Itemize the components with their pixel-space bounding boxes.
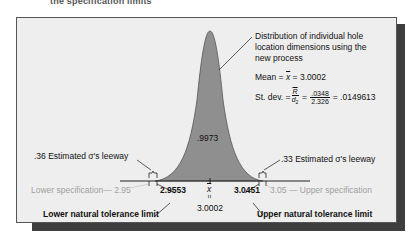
- mean-label: Mean =: [255, 72, 286, 82]
- lower-ntl-value: 2.9553: [160, 185, 186, 195]
- mean-axis-value: 3.0002: [197, 203, 223, 213]
- lower-specification-label: Lower specification— 2.95: [31, 185, 131, 195]
- stdev-label: St. dev. =: [255, 92, 291, 102]
- right-leeway-leader: [264, 160, 280, 170]
- numeric-fraction: .0348 2.326: [310, 90, 330, 105]
- area-label: .9973: [197, 133, 218, 143]
- right-leeway-label: .33 Estimated σ's leeway: [281, 154, 375, 164]
- mean-symbol: x: [286, 72, 290, 82]
- upper-ntl-value: 3.0451: [234, 185, 260, 195]
- lower-spec-leader: [130, 184, 149, 188]
- upper-ntl-label: Upper natural tolerance limit: [257, 209, 372, 219]
- r-bar-over-d2: R d2: [292, 88, 299, 106]
- distribution-label-line2: location dimensions using the: [255, 42, 367, 52]
- distribution-label-line1: Distribution of individual hole: [255, 31, 363, 41]
- lower-ntl-label: Lower natural tolerance limit: [43, 209, 159, 219]
- distribution-leader: [219, 37, 252, 70]
- upper-specification-label: 3.05 — Upper specification: [270, 185, 372, 195]
- right-leeway-bracket: [259, 171, 266, 178]
- distribution-label-line3: new process: [255, 53, 303, 63]
- left-leeway-bracket: [149, 171, 157, 178]
- mean-value: = 3.0002: [293, 72, 326, 82]
- mean-axis-symbol: x: [207, 184, 211, 194]
- left-leeway-leader: [137, 160, 151, 170]
- mean-axis-equals: =: [206, 194, 213, 198]
- stdev-formula: St. dev. = R d2 = .0348 2.326 = .0149613: [255, 88, 376, 106]
- left-leeway-label: .36 Estimated σ's leeway: [34, 151, 128, 161]
- stdev-result: = .0149613: [333, 92, 376, 102]
- distribution-curve: [155, 31, 263, 181]
- mean-formula: Mean = x = 3.0002: [255, 72, 326, 82]
